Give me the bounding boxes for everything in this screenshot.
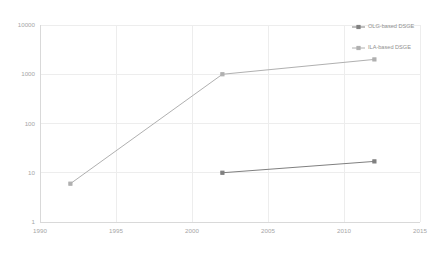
x-axis-tick-label: 2000 (185, 227, 199, 234)
y-axis-tick-label: 10000 (18, 21, 36, 28)
data-point-marker (221, 73, 224, 76)
grid-lines (40, 25, 420, 222)
data-point-marker (373, 58, 376, 61)
y-axis-tick-label: 1000 (21, 70, 35, 77)
y-axis-tick-label: 1 (32, 218, 36, 225)
series-ila-based-dsge (69, 58, 376, 185)
chart-legend: OLG-based DSGEILA-based DSGE (352, 23, 415, 50)
x-axis-tick-label: 2015 (413, 227, 427, 234)
x-axis-tick-label: 1995 (109, 227, 123, 234)
legend-swatch-marker (357, 25, 360, 28)
legend-item: ILA-based DSGE (352, 44, 411, 50)
data-series-group (69, 58, 376, 185)
data-point-marker (373, 160, 376, 163)
y-axis-tick-label: 100 (25, 120, 36, 127)
x-axis-tick-labels: 199019952000200520102015 (33, 227, 427, 234)
data-point-marker (69, 182, 72, 185)
x-axis-tick-label: 2005 (261, 227, 275, 234)
series-olg-based-dsge (221, 160, 376, 175)
line-chart: 110100100010000 199019952000200520102015… (0, 0, 429, 253)
x-axis-tick-label: 2010 (337, 227, 351, 234)
x-axis-tick-label: 1990 (33, 227, 47, 234)
y-axis-tick-label: 10 (28, 169, 35, 176)
series-line (222, 161, 374, 172)
legend-swatch-marker (357, 46, 360, 49)
data-point-marker (221, 171, 224, 174)
legend-label: ILA-based DSGE (368, 44, 411, 50)
legend-item: OLG-based DSGE (352, 23, 415, 29)
y-axis-tick-labels: 110100100010000 (18, 21, 36, 225)
legend-label: OLG-based DSGE (368, 23, 415, 29)
chart-container: 110100100010000 199019952000200520102015… (0, 0, 429, 253)
